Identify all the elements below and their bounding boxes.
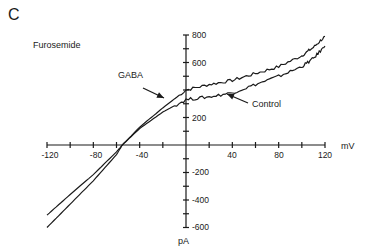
panel-label: C xyxy=(8,6,20,24)
y-tick-label: -200 xyxy=(192,167,209,177)
x-axis-unit: mV xyxy=(341,141,355,151)
y-tick-label: -600 xyxy=(192,222,209,232)
x-tick-label: -80 xyxy=(90,150,102,160)
y-tick-label: 600 xyxy=(192,58,206,68)
x-tick-label: 40 xyxy=(227,150,236,160)
x-tick-label: -40 xyxy=(136,150,148,160)
x-tick-label: 80 xyxy=(274,150,283,160)
control-annotation: Control xyxy=(252,99,281,109)
x-tick-label: -120 xyxy=(41,150,58,160)
gaba-arrow-icon xyxy=(143,88,164,98)
condition-label: Furosemide xyxy=(33,40,81,50)
annotation-arrows xyxy=(143,88,248,103)
y-axis-unit: pA xyxy=(178,236,189,246)
gaba-annotation: GABA xyxy=(118,70,143,80)
iv-curve-plot xyxy=(0,0,367,251)
control-arrow-icon xyxy=(227,94,248,103)
x-tick-label: 120 xyxy=(318,150,332,160)
y-tick-label: 800 xyxy=(192,30,206,40)
y-tick-label: 200 xyxy=(192,113,206,123)
axes xyxy=(47,35,325,228)
y-tick-label: -400 xyxy=(192,195,209,205)
